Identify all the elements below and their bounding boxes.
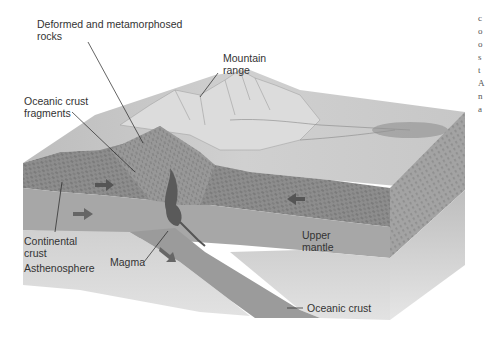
- label-oceanic-fragments-line2: fragments: [24, 107, 88, 119]
- label-upper-mantle-line2: mantle: [302, 241, 334, 253]
- side-glyph: t: [478, 64, 485, 77]
- label-deformed-rocks: Deformed and metamorphosed rocks: [37, 18, 182, 42]
- label-oceanic-fragments-line1: Oceanic crust: [24, 95, 88, 107]
- label-mountain-range: Mountain range: [223, 52, 266, 76]
- side-glyph: A: [478, 77, 485, 90]
- side-glyph: s: [478, 51, 485, 64]
- label-continental-crust: Continental crust: [24, 235, 77, 259]
- valley-shadow: [372, 122, 448, 138]
- label-mountain-line1: Mountain: [223, 52, 266, 64]
- label-upper-mantle-line1: Upper: [302, 229, 334, 241]
- label-upper-mantle: Upper mantle: [302, 229, 334, 253]
- side-glyph: n: [478, 90, 485, 103]
- label-deformed-rocks-line1: Deformed and metamorphosed: [37, 18, 182, 30]
- label-magma: Magma: [110, 256, 145, 268]
- label-asthenosphere: Asthenosphere: [24, 262, 95, 274]
- label-mountain-line2: range: [223, 64, 266, 76]
- label-continental-line2: crust: [24, 247, 77, 259]
- label-continental-line1: Continental: [24, 235, 77, 247]
- side-glyph: c: [478, 12, 485, 25]
- diagram-figure: Deformed and metamorphosed rocks Mountai…: [0, 0, 485, 343]
- label-oceanic-crust-fragments: Oceanic crust fragments: [24, 95, 88, 119]
- side-glyph: o: [478, 38, 485, 51]
- side-glyph: a: [478, 103, 485, 116]
- side-glyph: o: [478, 25, 485, 38]
- cropped-side-text: c o o s t A n a: [478, 12, 485, 116]
- label-oceanic-crust: Oceanic crust: [307, 302, 371, 314]
- label-deformed-rocks-line2: rocks: [37, 30, 182, 42]
